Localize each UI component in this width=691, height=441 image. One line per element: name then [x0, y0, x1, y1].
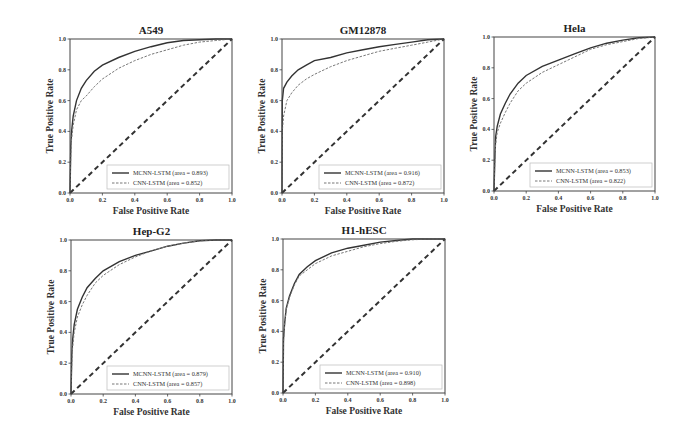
legend: MCNN-LSTM (area = 0.879)CNN-LSTM (area =…: [107, 366, 229, 390]
y-tick-label: 1.0: [271, 36, 279, 42]
legend-label: CNN-LSTM (area = 0.898): [346, 379, 415, 387]
y-tick-label: 1.0: [59, 36, 67, 42]
x-tick-label: 0.8: [619, 195, 627, 201]
x-tick-label: 0.8: [408, 197, 416, 203]
y-tick-label: 0.4: [272, 328, 280, 334]
x-axis-label: False Positive Rate: [325, 206, 402, 216]
y-tick-label: 0.6: [272, 298, 280, 304]
y-tick-label: 1.0: [272, 236, 280, 242]
y-tick-label: 0.4: [60, 329, 68, 335]
x-tick-label: 0.0: [279, 397, 287, 403]
y-tick-label: 0.2: [60, 360, 68, 366]
legend: MCNN-LSTM (area = 0.910)CNN-LSTM (area =…: [320, 365, 442, 389]
subplot-title: GM12878: [340, 24, 387, 36]
x-axis-label: False Positive Rate: [536, 204, 613, 214]
subplot-title: A549: [139, 24, 164, 36]
y-tick-label: 0.0: [483, 188, 491, 194]
subplot-h1-hesc: H1-hESC0.00.20.40.60.81.00.00.20.40.60.8…: [258, 224, 449, 416]
x-tick-label: 1.0: [440, 197, 448, 203]
y-tick-label: 0.8: [60, 268, 68, 274]
y-axis-label: True Positive Rate: [257, 79, 267, 154]
y-tick-label: 0.0: [60, 391, 68, 397]
x-tick-label: 0.2: [99, 197, 107, 203]
x-tick-label: 0.4: [555, 195, 563, 201]
legend: MCNN-LSTM (area = 0.853)CNN-LSTM (area =…: [530, 163, 652, 187]
x-tick-label: 0.8: [196, 197, 204, 203]
y-axis-label: True Positive Rate: [258, 279, 268, 354]
legend-label: CNN-LSTM (area = 0.852): [133, 179, 202, 187]
x-tick-label: 0.0: [278, 197, 286, 203]
legend-label: MCNN-LSTM (area = 0.879): [133, 370, 208, 378]
y-tick-label: 0.6: [271, 98, 279, 104]
y-tick-label: 0.0: [272, 390, 280, 396]
subplot-a549: A5490.00.20.40.60.81.00.00.20.40.60.81.0…: [45, 24, 236, 216]
y-tick-label: 0.2: [59, 159, 67, 165]
subplot-title: H1-hESC: [341, 224, 386, 236]
y-tick-label: 0.8: [59, 67, 67, 73]
x-tick-label: 1.0: [651, 195, 659, 201]
x-tick-label: 0.0: [66, 197, 74, 203]
x-tick-label: 1.0: [441, 397, 449, 403]
y-tick-label: 0.4: [59, 128, 67, 134]
x-tick-label: 0.4: [343, 197, 351, 203]
x-tick-label: 1.0: [228, 197, 236, 203]
legend-label: CNN-LSTM (area = 0.872): [345, 179, 414, 187]
y-axis-label: True Positive Rate: [469, 77, 479, 152]
y-axis-label: True Positive Rate: [46, 280, 56, 355]
subplot-hela: Hela0.00.20.40.60.81.00.00.20.40.60.81.0…: [469, 22, 659, 214]
legend: MCNN-LSTM (area = 0.916)CNN-LSTM (area =…: [319, 165, 441, 189]
x-tick-label: 0.6: [164, 398, 172, 404]
legend-label: MCNN-LSTM (area = 0.916): [345, 169, 420, 177]
x-tick-label: 0.6: [375, 197, 383, 203]
x-tick-label: 0.6: [376, 397, 384, 403]
x-axis-label: False Positive Rate: [113, 206, 190, 216]
y-tick-label: 1.0: [483, 34, 491, 40]
x-tick-label: 0.6: [163, 197, 171, 203]
subplot-gm12878: GM128780.00.20.40.60.81.00.00.20.40.60.8…: [257, 24, 448, 216]
y-tick-label: 0.8: [271, 67, 279, 73]
legend-label: CNN-LSTM (area = 0.822): [556, 177, 625, 185]
legend: MCNN-LSTM (area = 0.893)CNN-LSTM (area =…: [107, 165, 229, 189]
subplot-title: Hela: [564, 22, 586, 34]
x-tick-label: 0.8: [409, 397, 417, 403]
y-tick-label: 0.2: [272, 359, 280, 365]
y-tick-label: 0.8: [272, 267, 280, 273]
x-tick-label: 0.2: [522, 195, 530, 201]
x-tick-label: 0.4: [131, 197, 139, 203]
x-tick-label: 0.2: [311, 197, 319, 203]
x-tick-label: 1.0: [228, 398, 236, 404]
y-tick-label: 0.4: [271, 128, 279, 134]
legend-label: MCNN-LSTM (area = 0.893): [133, 169, 208, 177]
x-tick-label: 0.4: [344, 397, 352, 403]
x-axis-label: False Positive Rate: [113, 407, 190, 417]
y-tick-label: 0.0: [271, 190, 279, 196]
x-tick-label: 0.4: [132, 398, 140, 404]
x-tick-label: 0.8: [196, 398, 204, 404]
x-tick-label: 0.2: [312, 397, 320, 403]
y-tick-label: 0.0: [59, 190, 67, 196]
x-tick-label: 0.6: [587, 195, 595, 201]
y-tick-label: 0.2: [483, 157, 491, 163]
x-tick-label: 0.0: [67, 398, 75, 404]
y-tick-label: 0.6: [483, 96, 491, 102]
y-tick-label: 1.0: [60, 237, 68, 243]
x-tick-label: 0.2: [99, 398, 107, 404]
roc-figure: A5490.00.20.40.60.81.00.00.20.40.60.81.0…: [0, 0, 691, 441]
y-axis-label: True Positive Rate: [45, 79, 55, 154]
x-axis-label: False Positive Rate: [326, 406, 403, 416]
y-tick-label: 0.6: [59, 98, 67, 104]
legend-label: CNN-LSTM (area = 0.857): [133, 380, 202, 388]
legend-label: MCNN-LSTM (area = 0.910): [346, 369, 421, 377]
y-tick-label: 0.2: [271, 159, 279, 165]
y-tick-label: 0.8: [483, 65, 491, 71]
legend-label: MCNN-LSTM (area = 0.853): [556, 167, 631, 175]
y-tick-label: 0.4: [483, 126, 491, 132]
x-tick-label: 0.0: [490, 195, 498, 201]
y-tick-label: 0.6: [60, 299, 68, 305]
subplot-title: Hep-G2: [133, 225, 171, 237]
subplot-hep-g2: Hep-G20.00.20.40.60.81.00.00.20.40.60.81…: [46, 225, 236, 417]
